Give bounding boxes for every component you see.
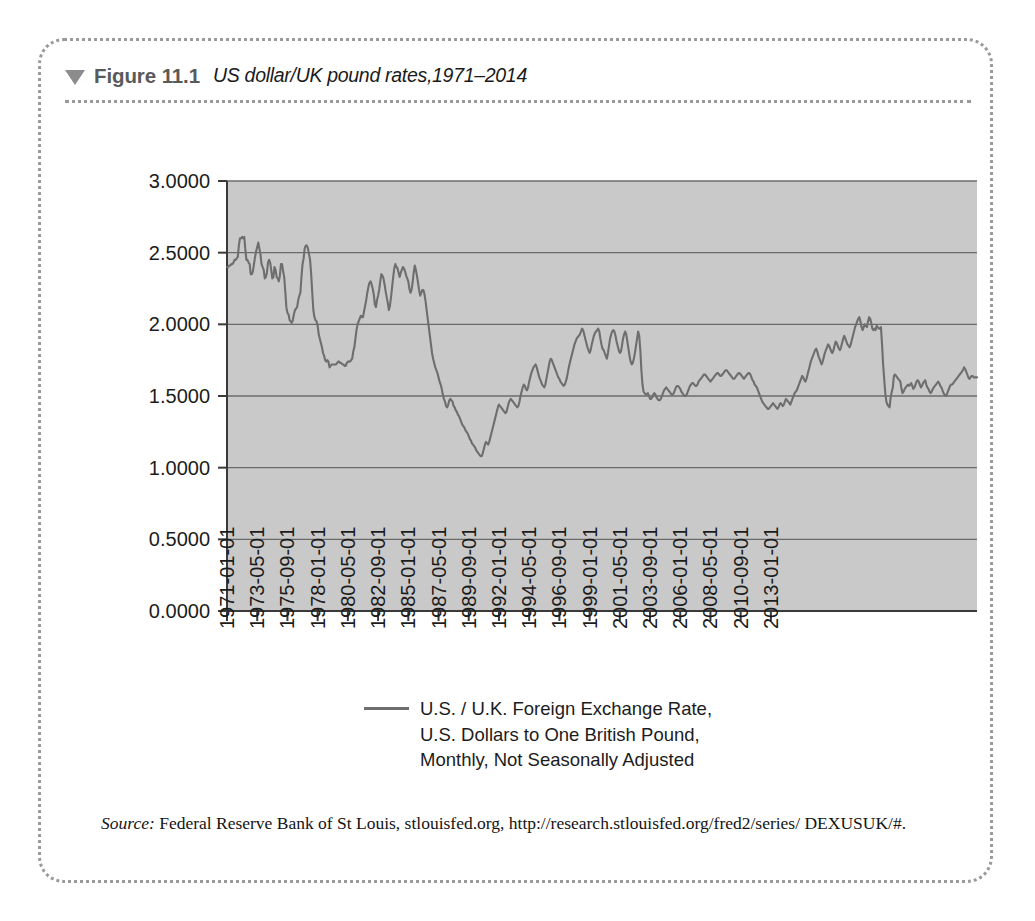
legend-line-1: U.S. / U.K. Foreign Exchange Rate, xyxy=(420,696,712,722)
y-tick-label: 3.0000 xyxy=(149,170,210,192)
x-tick-label: 2003-09-01 xyxy=(639,527,661,629)
y-tick-label: 2.5000 xyxy=(149,242,210,264)
y-tick-labels: 0.00000.50001.00001.50002.00002.50003.00… xyxy=(149,170,210,622)
figure-card: Figure 11.1 US dollar/UK pound rates,197… xyxy=(38,38,993,883)
x-tick-label: 1980-05-01 xyxy=(337,527,359,629)
y-tick-label: 1.0000 xyxy=(149,457,210,479)
x-tick-label: 2001-05-01 xyxy=(609,527,631,629)
y-tick-label: 0.5000 xyxy=(149,528,210,550)
x-tick-label: 2006-01-01 xyxy=(669,527,691,629)
y-tick-label: 1.5000 xyxy=(149,385,210,407)
triangle-down-icon xyxy=(65,70,85,85)
legend-text: U.S. / U.K. Foreign Exchange Rate, U.S. … xyxy=(420,696,712,773)
x-tick-label: 2010-09-01 xyxy=(730,527,752,629)
legend-line-2: U.S. Dollars to One British Pound, xyxy=(420,722,712,748)
x-tick-label: 1982-09-01 xyxy=(367,527,389,629)
figure-title: US dollar/UK pound rates,1971–2014 xyxy=(213,64,527,87)
y-tick-label: 0.0000 xyxy=(149,600,210,622)
x-tick-label: 2008-05-01 xyxy=(699,527,721,629)
x-tick-label: 1971-01-01 xyxy=(216,527,238,629)
y-tick-label: 2.0000 xyxy=(149,313,210,335)
x-tick-label: 1985-01-01 xyxy=(397,527,419,629)
legend-line-3: Monthly, Not Seasonally Adjusted xyxy=(420,747,712,773)
x-tick-label: 1992-01-01 xyxy=(488,527,510,629)
x-tick-label: 2013-01-01 xyxy=(760,527,782,629)
x-tick-label: 1973-05-01 xyxy=(246,527,268,629)
x-tick-label: 1987-05-01 xyxy=(428,527,450,629)
figure-number-label: Figure 11.1 xyxy=(94,64,200,88)
x-tick-label: 1978-01-01 xyxy=(307,527,329,629)
source-label: Source: xyxy=(101,813,155,833)
x-tick-label: 1989-09-01 xyxy=(458,527,480,629)
x-tick-label: 1975-09-01 xyxy=(276,527,298,629)
x-tick-label: 1996-09-01 xyxy=(548,527,570,629)
legend-line-swatch xyxy=(364,707,409,710)
x-tick-label: 1999-01-01 xyxy=(579,527,601,629)
x-tick-label: 1994-05-01 xyxy=(518,527,540,629)
chart-legend: U.S. / U.K. Foreign Exchange Rate, U.S. … xyxy=(364,696,924,773)
source-note: Source: Federal Reserve Bank of St Louis… xyxy=(101,811,981,836)
figure-header: Figure 11.1 US dollar/UK pound rates,197… xyxy=(65,51,971,103)
source-text: Federal Reserve Bank of St Louis, stloui… xyxy=(155,813,906,833)
